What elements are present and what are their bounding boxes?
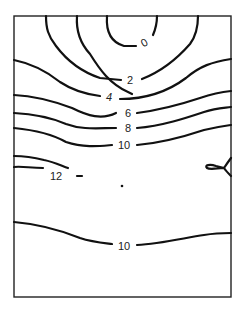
contour-10-right [137,125,231,145]
contour-0-right [153,16,157,35]
label-8: 8 [125,122,131,134]
contour-plot: 0 2 4 6 8 10 12 10 [0,0,244,310]
contour-10-lower [14,222,112,244]
label-10: 10 [118,139,130,151]
contour-12-dot [121,185,124,188]
contour-12-right [206,158,231,176]
contour-4-left [14,60,100,96]
contour-12-left-lower [14,167,43,168]
contour-8 [14,113,116,128]
label-0: 0 [139,36,150,49]
label-12: 12 [50,170,62,182]
label-10-lower: 10 [118,240,130,252]
label-2: 2 [127,74,133,86]
label-4: 4 [106,91,112,103]
contour-10 [14,128,112,146]
contour-2 [46,16,121,80]
contour-2-right [142,16,198,79]
contour-0 [107,16,136,46]
plot-frame [14,16,231,297]
label-6: 6 [125,107,131,119]
contour-10-lower-right [137,233,231,245]
contour-4 [77,16,132,94]
